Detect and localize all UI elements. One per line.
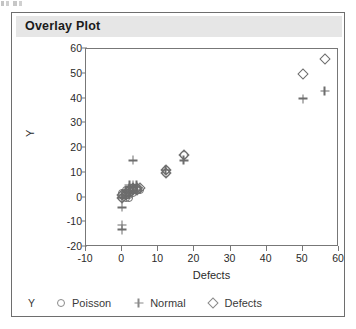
data-point-normal (128, 183, 137, 192)
data-point-poisson (122, 194, 130, 202)
data-point-normal (121, 191, 130, 200)
overlay-plot-panel: Overlay Plot Y -20-100102030405060 -1001… (11, 12, 345, 317)
data-point-poisson (118, 194, 126, 202)
y-tick-label: -10 (67, 215, 82, 227)
data-point-poisson (125, 189, 133, 197)
data-point-defects (178, 150, 189, 161)
plus-icon (133, 298, 144, 309)
x-tick-mark (193, 246, 194, 251)
data-point-normal (128, 181, 137, 190)
x-tick-label: -10 (77, 252, 92, 264)
x-tick-label: 40 (260, 252, 272, 264)
x-tick-mark (302, 246, 303, 251)
legend-label: Defects (225, 297, 262, 309)
data-point-poisson (122, 189, 130, 197)
data-point-normal (320, 87, 329, 96)
data-point-defects (160, 165, 171, 176)
x-tick-mark (85, 246, 86, 251)
data-point-poisson (162, 166, 170, 174)
circle-icon (55, 298, 66, 309)
plot-area (86, 49, 337, 245)
x-tick-label: 0 (118, 252, 124, 264)
data-point-poisson (133, 184, 141, 192)
y-axis-title: Y (24, 130, 36, 137)
legend-role-label: Y (28, 297, 35, 309)
chart-legend: Y PoissonNormalDefects (16, 292, 342, 314)
x-tick-mark (266, 246, 267, 251)
data-point-poisson (162, 169, 170, 177)
y-tick-label: 10 (70, 166, 82, 178)
data-point-poisson (125, 191, 133, 199)
scan-noise-artifact (1, 1, 23, 6)
data-point-defects (131, 182, 142, 193)
data-point-defects (127, 184, 138, 195)
x-axis-title: Defects (85, 269, 338, 281)
diamond-icon (208, 298, 219, 309)
data-point-poisson (133, 186, 141, 194)
y-tick-label: 20 (70, 141, 82, 153)
data-point-defects (127, 182, 138, 193)
page-title: Overlay Plot (25, 19, 100, 33)
data-point-defects (116, 192, 127, 203)
y-axis-ticks: -20-100102030405060 (50, 48, 82, 246)
data-point-normal (125, 183, 134, 192)
data-point-poisson (129, 184, 137, 192)
y-tick-label: 50 (70, 67, 82, 79)
data-point-normal (118, 193, 127, 202)
y-tick-label: 30 (70, 116, 82, 128)
data-point-poisson (136, 186, 144, 194)
x-tick-mark (338, 246, 339, 251)
data-point-poisson (129, 186, 137, 194)
x-tick-label: 30 (224, 252, 236, 264)
data-point-defects (124, 184, 135, 195)
data-point-defects (116, 189, 127, 200)
legend-entry-defects[interactable]: Defects (208, 297, 262, 309)
plot-title-bar: Overlay Plot (16, 16, 342, 37)
data-point-defects (124, 187, 135, 198)
data-point-defects (319, 53, 330, 64)
x-tick-mark (157, 246, 158, 251)
data-point-normal (132, 181, 141, 190)
data-point-normal (128, 156, 137, 165)
y-tick-label: 40 (70, 92, 82, 104)
x-axis-ticks: -100102030405060 (85, 246, 338, 268)
data-point-normal (132, 186, 141, 195)
x-tick-label: 60 (332, 252, 344, 264)
y-tick-label: 60 (70, 42, 82, 54)
x-tick-mark (121, 246, 122, 251)
data-point-defects (160, 167, 171, 178)
plot-frame (85, 48, 338, 246)
data-point-normal (118, 220, 127, 229)
data-point-normal (118, 203, 127, 212)
legend-entry-normal[interactable]: Normal (133, 297, 185, 309)
data-point-poisson (118, 189, 126, 197)
x-tick-label: 10 (151, 252, 163, 264)
legend-label: Normal (150, 297, 185, 309)
x-tick-label: 50 (296, 252, 308, 264)
data-point-defects (135, 182, 146, 193)
data-point-defects (131, 184, 142, 195)
data-point-normal (125, 181, 134, 190)
data-point-normal (118, 225, 127, 234)
data-point-poisson (125, 186, 133, 194)
data-point-normal (125, 188, 134, 197)
data-point-poisson (122, 191, 130, 199)
data-point-normal (161, 166, 170, 175)
data-point-defects (297, 68, 308, 79)
y-tick-label: -20 (67, 240, 82, 252)
legend-label: Poisson (72, 297, 111, 309)
data-point-defects (120, 189, 131, 200)
data-point-poisson (180, 151, 188, 159)
data-point-poisson (118, 191, 126, 199)
data-point-normal (179, 156, 188, 165)
x-tick-label: 20 (188, 252, 200, 264)
data-point-poisson (125, 194, 133, 202)
data-point-normal (298, 94, 307, 103)
data-point-defects (120, 187, 131, 198)
x-tick-mark (230, 246, 231, 251)
data-point-poisson (129, 189, 137, 197)
data-point-normal (121, 186, 130, 195)
legend-entry-poisson[interactable]: Poisson (55, 297, 111, 309)
data-point-poisson (122, 186, 130, 194)
